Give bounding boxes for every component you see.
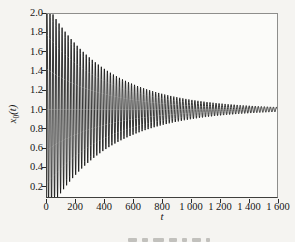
- x-tick-label: 1 600: [256, 201, 295, 213]
- y-tick-label: 0.8: [19, 123, 43, 135]
- y-tick-label: 0.6: [19, 142, 43, 154]
- x-axis-label: t: [142, 210, 182, 223]
- y-tick-label: 1.0: [19, 104, 43, 116]
- y-axis-label: x0(t): [6, 101, 20, 127]
- y-tick-label: 0.2: [19, 181, 43, 193]
- figure-page: 0.20.40.60.81.01.21.41.61.82.0 020040060…: [0, 0, 295, 242]
- y-axis-label-suffix: (t): [7, 105, 18, 115]
- y-tick-label: 2.0: [19, 7, 43, 19]
- y-tick-label: 0.4: [19, 161, 43, 173]
- y-tick-label: 1.6: [19, 46, 43, 58]
- y-tick-label: 1.8: [19, 26, 43, 38]
- y-tick-label: 1.4: [19, 65, 43, 77]
- y-axis-label-base: x: [7, 119, 18, 124]
- waveform-series: [47, 14, 277, 197]
- damped-oscillation-trace: [47, 14, 277, 197]
- cutoff-caption-fragment: [128, 238, 248, 242]
- plot-area: [46, 13, 278, 198]
- y-axis-label-subscript: 0: [12, 115, 21, 119]
- y-tick-label: 1.2: [19, 84, 43, 96]
